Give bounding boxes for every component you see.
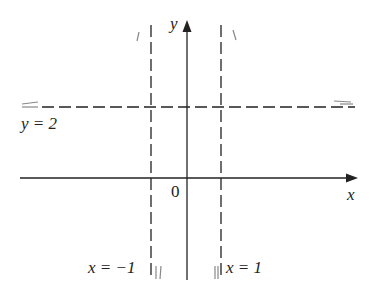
x-axis — [20, 174, 358, 183]
x-axis-label: x — [347, 186, 355, 203]
y-axis — [183, 20, 192, 280]
origin-label: 0 — [171, 183, 180, 200]
horizontal-asymptote-label: y = 2 — [21, 115, 57, 132]
graph-canvas — [0, 0, 374, 300]
x-axis-arrow-icon — [346, 174, 358, 183]
vertical-asymptote-right-label: x = 1 — [226, 259, 262, 276]
vertical-asymptote-left-label: x = −1 — [88, 259, 136, 276]
y-axis-arrow-icon — [183, 20, 192, 32]
y-axis-label: y — [170, 15, 178, 32]
